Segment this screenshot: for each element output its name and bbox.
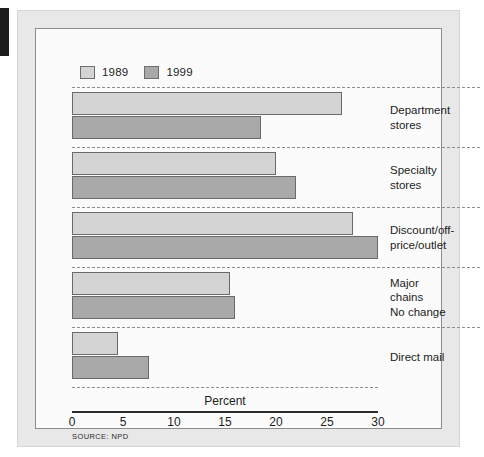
- legend-item-1989: 1989: [80, 66, 128, 79]
- page-edge-artifact: [0, 8, 9, 56]
- bar-group: Departmentstores: [72, 87, 480, 147]
- category-label-line: Major: [390, 276, 484, 291]
- x-tick-20: 20: [269, 415, 282, 429]
- bar-1999-1: [72, 116, 261, 139]
- bar-1989-4: [72, 272, 230, 295]
- chart-legend: 1989 1999: [72, 57, 480, 87]
- x-tick-0: 0: [69, 415, 76, 429]
- bar-1989-1: [72, 92, 342, 115]
- x-axis: Percent 051015202530 SOURCE: NPD: [72, 387, 378, 441]
- category-label-line: stores: [390, 118, 484, 133]
- bars-area: [72, 88, 378, 147]
- bar-group: Discount/off-price/outlet: [72, 207, 480, 267]
- legend-label-1989: 1989: [102, 66, 128, 78]
- category-label-line: chains: [390, 290, 484, 305]
- bar-group: MajorchainsNo change: [72, 267, 480, 327]
- bars-area: [72, 208, 378, 267]
- bar-1989-3: [72, 212, 353, 235]
- bar-1999-3: [72, 236, 378, 259]
- category-label-line: Direct mail: [390, 350, 484, 365]
- category-label-line: Department: [390, 103, 484, 118]
- category-label-line: Specialty: [390, 163, 484, 178]
- bar-1999-4: [72, 296, 235, 319]
- legend-item-1999: 1999: [144, 66, 192, 79]
- x-tick-25: 25: [320, 415, 333, 429]
- figure-frame: 1989 1999 DepartmentstoresSpecialtystore…: [17, 10, 460, 447]
- x-tick-5: 5: [120, 415, 127, 429]
- x-axis-title: Percent: [72, 394, 378, 411]
- category-label-line: Discount/off-: [390, 223, 484, 238]
- bar-1999-5: [72, 356, 149, 379]
- bar-group: Direct mail: [72, 327, 480, 387]
- x-tick-15: 15: [218, 415, 231, 429]
- x-tick-30: 30: [371, 415, 384, 429]
- x-axis-ticks: 051015202530: [72, 413, 378, 431]
- legend-swatch-1989: [80, 66, 95, 79]
- bar-1999-2: [72, 176, 296, 199]
- category-label: MajorchainsNo change: [390, 268, 484, 327]
- legend-label-1999: 1999: [166, 66, 192, 78]
- bars-area: [72, 328, 378, 387]
- category-label-line: price/outlet: [390, 238, 484, 253]
- bar-group: Specialtystores: [72, 147, 480, 207]
- category-label-line: stores: [390, 178, 484, 193]
- source-note: SOURCE: NPD: [72, 431, 378, 441]
- legend-swatch-1999: [144, 66, 159, 79]
- bar-1989-2: [72, 152, 276, 175]
- category-label: Direct mail: [390, 328, 484, 387]
- category-label: Departmentstores: [390, 88, 484, 147]
- bars-area: [72, 268, 378, 327]
- bar-1989-5: [72, 332, 118, 355]
- category-label: Discount/off-price/outlet: [390, 208, 484, 267]
- bar-chart: 1989 1999 DepartmentstoresSpecialtystore…: [72, 57, 480, 447]
- category-label-line: No change: [390, 305, 484, 320]
- bars-area: [72, 148, 378, 207]
- figure-frame-inner: 1989 1999 DepartmentstoresSpecialtystore…: [35, 28, 442, 429]
- category-label: Specialtystores: [390, 148, 484, 207]
- x-tick-10: 10: [167, 415, 180, 429]
- plot-area: DepartmentstoresSpecialtystoresDiscount/…: [72, 87, 480, 387]
